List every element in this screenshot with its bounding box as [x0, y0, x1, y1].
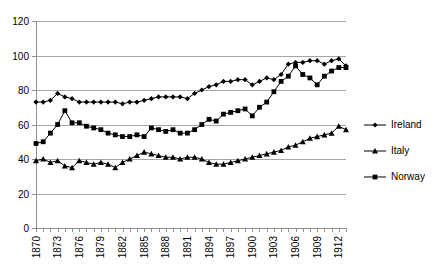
data-point-marker: [55, 158, 61, 164]
y-axis-tick-label: 60: [18, 120, 30, 131]
series-norway: [34, 63, 349, 145]
data-point-marker: [48, 131, 53, 136]
data-point-marker: [336, 123, 342, 129]
data-point-marker: [171, 127, 176, 132]
data-point-marker: [272, 89, 277, 94]
data-point-marker: [34, 141, 39, 146]
x-axis-tick-label: 1906: [290, 236, 301, 259]
data-point-marker: [91, 99, 96, 104]
data-point-marker: [243, 107, 248, 112]
data-point-marker: [134, 153, 140, 159]
data-point-marker: [286, 74, 291, 79]
data-point-marker: [163, 94, 168, 99]
y-axis-tick-label: 0: [23, 223, 29, 234]
data-point-marker: [62, 163, 68, 169]
series-line: [36, 66, 346, 144]
data-point-marker: [221, 112, 226, 117]
data-point-marker: [221, 79, 226, 84]
data-point-marker: [343, 127, 349, 133]
data-point-marker: [178, 94, 183, 99]
legend-item-norway[interactable]: Norway: [364, 171, 425, 182]
data-point-marker: [336, 65, 341, 70]
legend: IrelandItalyNorway: [364, 119, 425, 182]
data-point-marker: [98, 127, 103, 132]
data-point-marker: [373, 175, 378, 180]
data-point-marker: [344, 65, 349, 70]
data-point-marker: [62, 108, 67, 113]
data-point-marker: [264, 75, 269, 80]
data-point-marker: [33, 99, 38, 104]
data-point-marker: [127, 134, 132, 139]
data-point-marker: [134, 99, 139, 104]
data-point-marker: [300, 72, 305, 77]
y-gridlines: 020406080100120: [12, 16, 346, 234]
x-axis-tick-label: 1879: [95, 236, 106, 259]
data-point-marker: [141, 149, 147, 155]
y-axis-tick-label: 40: [18, 154, 30, 165]
data-point-marker: [84, 124, 89, 129]
x-axis-ticks: 1870187318761879188218851888189118941897…: [31, 228, 347, 258]
data-point-marker: [163, 129, 168, 134]
data-point-marker: [300, 60, 305, 65]
data-point-marker: [214, 82, 219, 87]
data-point-marker: [113, 132, 118, 137]
data-point-marker: [315, 58, 320, 63]
data-point-marker: [62, 94, 67, 99]
series-line: [36, 59, 346, 104]
line-chart: 0204060801001201870187318761879188218851…: [0, 0, 435, 276]
x-axis-tick-label: 1912: [333, 236, 344, 259]
data-point-marker: [300, 139, 306, 145]
data-point-marker: [307, 58, 312, 63]
data-point-marker: [228, 110, 233, 115]
data-point-marker: [41, 139, 46, 144]
data-point-marker: [322, 62, 327, 67]
y-axis-tick-label: 120: [12, 16, 29, 27]
legend-item-label: Ireland: [391, 119, 422, 130]
data-point-marker: [278, 147, 284, 153]
data-point-marker: [40, 156, 46, 162]
data-point-marker: [322, 74, 327, 79]
data-point-marker: [142, 98, 147, 103]
data-point-marker: [77, 99, 82, 104]
data-point-marker: [257, 79, 262, 84]
x-axis-tick-label: 1873: [52, 236, 63, 259]
y-axis-tick-label: 20: [18, 189, 30, 200]
data-point-marker: [41, 99, 46, 104]
legend-item-italy[interactable]: Italy: [364, 145, 409, 156]
data-point-marker: [235, 77, 240, 82]
data-point-marker: [293, 142, 299, 148]
x-axis-tick-label: 1900: [247, 236, 258, 259]
data-point-marker: [192, 127, 197, 132]
legend-item-ireland[interactable]: Ireland: [364, 119, 422, 130]
x-axis-tick-label: 1885: [139, 236, 150, 259]
data-point-marker: [98, 99, 103, 104]
legend-item-label: Norway: [391, 171, 425, 182]
x-axis-tick-label: 1897: [225, 236, 236, 259]
x-axis-tick-label: 1891: [182, 236, 193, 259]
data-point-marker: [185, 131, 190, 136]
data-point-marker: [206, 159, 212, 165]
data-point-marker: [76, 158, 82, 164]
data-point-marker: [250, 113, 255, 118]
data-point-marker: [315, 82, 320, 87]
data-point-marker: [206, 84, 211, 89]
x-axis-tick-label: 1894: [204, 236, 215, 259]
data-point-marker: [257, 105, 262, 110]
data-point-marker: [113, 99, 118, 104]
data-point-marker: [127, 99, 132, 104]
x-axis-tick-label: 1903: [268, 236, 279, 259]
data-point-marker: [98, 159, 104, 165]
data-point-marker: [264, 100, 269, 105]
x-axis-tick-label: 1870: [31, 236, 42, 259]
data-point-marker: [156, 94, 161, 99]
series-italy: [33, 123, 349, 170]
data-point-marker: [329, 58, 334, 63]
data-point-marker: [293, 63, 298, 68]
data-point-marker: [156, 127, 161, 132]
data-point-marker: [228, 79, 233, 84]
x-axis-tick-label: 1888: [160, 236, 171, 259]
series-line: [36, 126, 346, 167]
data-point-marker: [235, 108, 240, 113]
data-point-marker: [149, 126, 154, 131]
data-point-marker: [199, 122, 204, 127]
